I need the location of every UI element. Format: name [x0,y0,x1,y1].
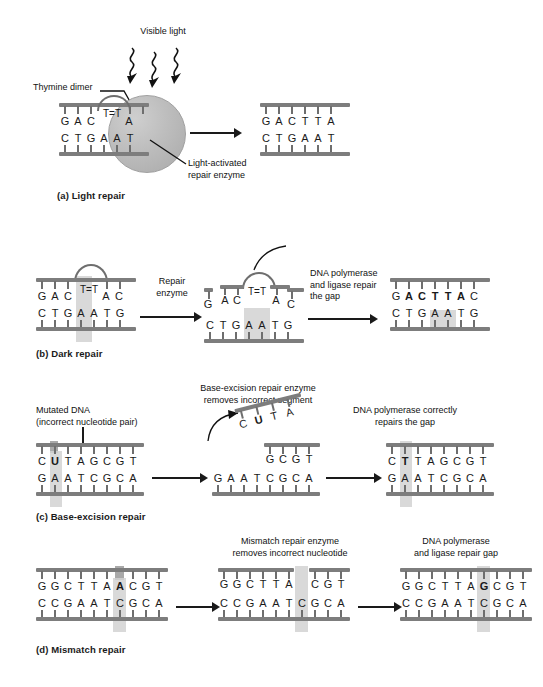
panel-d-mismatch-repair: G G C T T A A C G T C C G A [0,540,543,680]
base-mismatch: A [114,581,126,592]
base: C [88,473,100,484]
base: A [439,598,451,609]
base: A [153,598,165,609]
base: C [426,581,438,592]
base: A [442,308,454,319]
base: G [277,473,289,484]
base: G [230,320,242,331]
base: T [452,581,464,592]
base: G [36,581,48,592]
base: C [413,598,425,609]
base: G [202,299,214,310]
base: A [62,473,74,484]
base: G [309,598,321,609]
base: G [491,598,503,609]
base: A [75,598,87,609]
base: G [114,456,126,467]
base: U [252,413,266,427]
base: G [264,454,276,465]
panel-b-dark-repair: G A C A C T=T C T G A A T G [0,240,543,370]
duplex-d-mismatch: G G C T T A A C G T C C G A [36,568,168,624]
label-mutated-dna: Mutated DNA (incorrect nucleotide pair) [36,405,196,428]
base: T [101,308,113,319]
base: G [286,133,298,144]
base: A [325,116,337,127]
base: C [264,473,276,484]
panel-a-caption: (a) Light repair [57,190,125,201]
base-repaired: T [399,456,411,467]
base: T [312,116,324,127]
base: C [386,456,398,467]
base: C [114,598,126,609]
base: T [72,133,84,144]
base: A [403,291,415,302]
arrow-c-2 [326,473,382,483]
base: A [257,598,269,609]
base: C [451,456,463,467]
base: G [426,598,438,609]
base: C [416,291,428,302]
base: C [49,598,61,609]
base: T [88,581,100,592]
base: A [455,291,467,302]
base: G [59,116,71,127]
base: A [243,320,255,331]
base: G [282,320,294,331]
base: A [72,116,84,127]
base: G [322,579,334,590]
base: G [468,308,480,319]
base: G [62,308,74,319]
arrow-c-1 [152,473,208,483]
base: A [256,320,268,331]
base: G [88,456,100,467]
base: T [101,598,113,609]
base: G [244,598,256,609]
base: C [114,473,126,484]
base: C [309,579,321,590]
base: T [403,308,415,319]
base: T [267,410,281,424]
base: G [101,473,113,484]
label-c-dna-polymerase: DNA polymerase correctly repairs the gap [330,405,480,428]
base: C [140,598,152,609]
base: C [438,473,450,484]
base: A [299,133,311,144]
base: C [236,417,250,431]
base: C [286,116,298,127]
base: T [465,598,477,609]
base: A [452,598,464,609]
base: A [335,598,347,609]
dna-repair-figure: Visible light Thymine dimer [0,0,543,687]
base: G [62,598,74,609]
base: G [114,308,126,319]
base: G [464,456,476,467]
label-light-activated-repair-enzyme: Light-activated repair enzyme [188,158,298,181]
base: C [231,598,243,609]
base: T [217,320,229,331]
base: C [127,581,139,592]
base: T [124,133,136,144]
label-d-dna-polymerase: DNA polymerase and ligase repair gap [386,536,526,559]
duplex-d-repaired: G G C T T A G C G T C C G A [400,568,532,624]
base: T [412,456,424,467]
base: C [36,598,48,609]
base: G [504,581,516,592]
base: C [464,473,476,484]
base: T [251,473,263,484]
base: T [335,579,347,590]
base: C [468,291,480,302]
base: T [442,291,454,302]
base: A [465,581,477,592]
base: C [36,308,48,319]
base: C [390,308,402,319]
base: T [477,456,489,467]
base: T [283,598,295,609]
arrow-b-1 [140,312,202,322]
panel-c-caption: (c) Base-excision repair [36,511,146,522]
base: A [270,598,282,609]
panel-d-caption: (d) Mismatch repair [36,644,126,655]
base: C [277,454,289,465]
base: C [322,598,334,609]
base: C [260,133,272,144]
base: G [36,473,48,484]
